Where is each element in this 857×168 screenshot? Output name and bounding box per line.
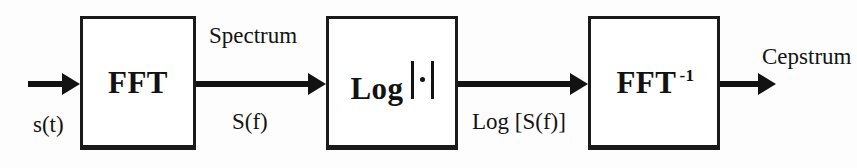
cepstrum-block-diagram: FFT Log FFT -1 s(t) Spectrum S(f) Log [S… xyxy=(0,0,857,168)
label-spectrum-symbol: S(f) xyxy=(232,110,268,133)
block-log-abs: Log xyxy=(326,16,458,150)
abs-bar-left xyxy=(411,61,414,99)
input-arrow-shaft xyxy=(28,81,64,87)
log-to-ifft-arrow-shaft xyxy=(458,81,572,87)
block-fft-text: FFT xyxy=(108,67,168,98)
label-log-spectrum-symbol: Log [S(f)] xyxy=(472,110,566,133)
absolute-value-bars-icon xyxy=(411,61,434,99)
block-inverse-fft-superscript: -1 xyxy=(679,67,694,84)
output-arrow-shaft xyxy=(720,81,760,87)
block-fft: FFT xyxy=(80,16,196,150)
log-to-ifft-arrow-head xyxy=(570,73,588,95)
fft-to-log-arrow-head xyxy=(308,73,326,95)
block-log-abs-text: Log xyxy=(350,73,403,104)
block-inverse-fft: FFT -1 xyxy=(588,16,720,150)
output-arrow-head xyxy=(758,73,776,95)
block-inverse-fft-text: FFT xyxy=(616,67,676,98)
label-spectrum-name: Spectrum xyxy=(209,24,297,47)
fft-to-log-arrow-shaft xyxy=(196,81,310,87)
abs-center-dot xyxy=(420,77,425,82)
block-inverse-fft-label: FFT -1 xyxy=(616,67,691,98)
block-log-abs-label: Log xyxy=(350,61,433,104)
label-output-signal: Cepstrum xyxy=(762,45,851,68)
block-fft-label: FFT xyxy=(108,67,168,98)
abs-bar-right xyxy=(431,61,434,99)
label-input-signal: s(t) xyxy=(33,113,64,136)
input-arrow-head xyxy=(62,73,80,95)
